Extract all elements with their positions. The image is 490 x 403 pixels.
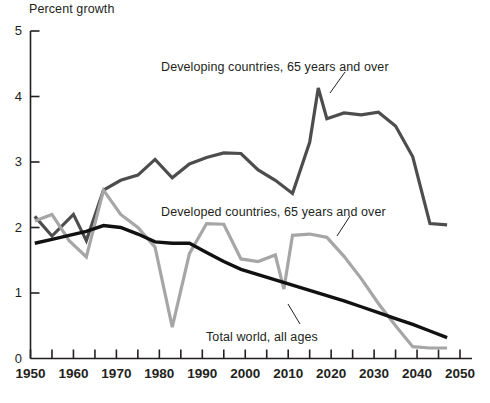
y-tick-label: 1 (6, 285, 22, 300)
x-tick-label: 2020 (309, 366, 353, 381)
y-tick-label: 4 (6, 89, 22, 104)
y-tick-label: 0 (6, 351, 22, 366)
x-tick-label: 2010 (266, 366, 310, 381)
x-tick-label: 2040 (395, 366, 439, 381)
x-tick-label: 1990 (180, 366, 224, 381)
axes-layer (31, 31, 473, 359)
x-tick-label: 2000 (223, 366, 267, 381)
series-annotation-1: Developed countries, 65 years and over (161, 205, 386, 219)
y-tick-label: 5 (6, 23, 22, 38)
x-tick-label: 2050 (438, 366, 482, 381)
x-tick-label: 1970 (94, 366, 138, 381)
y-tick-label: 3 (6, 154, 22, 169)
x-tick-label: 1950 (9, 366, 53, 381)
x-tick-label: 2030 (352, 366, 396, 381)
series-line-2 (35, 226, 447, 338)
leader-line-total-world (288, 304, 300, 324)
chart-figure: Percent growth 543210 195019601970198019… (0, 0, 490, 403)
leader-line-developed (337, 216, 350, 236)
x-tick-label: 1980 (137, 366, 181, 381)
y-tick-label: 2 (6, 220, 22, 235)
x-tick-label: 1960 (51, 366, 95, 381)
leader-line-developing (330, 72, 345, 93)
series-annotation-2: Total world, all ages (206, 330, 318, 344)
series-annotation-0: Developing countries, 65 years and over (161, 60, 389, 74)
y-axis-title: Percent growth (29, 2, 114, 16)
